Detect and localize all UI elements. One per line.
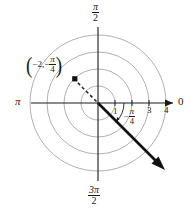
plotted-point-marker xyxy=(72,76,77,81)
angle-label-negative-pi-over-4: − π 4 xyxy=(124,107,135,125)
axis-label-3pi-over-2: 3π 2 xyxy=(88,185,100,206)
axis-label-zero: 0 xyxy=(178,96,184,107)
axis-label-3pi-over-2-denominator: 2 xyxy=(88,196,100,206)
radial-tick-label-4: 4 xyxy=(164,106,169,115)
point-label: ( −2 , − π 4 ) xyxy=(26,55,62,74)
point-label-open-paren: ( xyxy=(26,54,32,75)
point-label-close-paren: ) xyxy=(56,54,62,75)
polar-plot-canvas xyxy=(0,0,191,210)
radial-tick-label-1: 1 xyxy=(113,107,118,116)
axis-label-pi-over-2: π 2 xyxy=(92,2,99,23)
angle-label-denominator: 4 xyxy=(129,117,135,126)
polar-plot-figure: π 2 3π 2 π 0 1 3 4 − π 4 ( −2 , xyxy=(0,0,191,210)
dashed-radius-to-point xyxy=(76,81,97,102)
axis-label-pi: π xyxy=(15,96,21,107)
radial-tick-label-3: 3 xyxy=(147,106,152,115)
point-label-r: −2 xyxy=(32,60,42,69)
axis-label-pi-over-2-denominator: 2 xyxy=(92,13,99,23)
